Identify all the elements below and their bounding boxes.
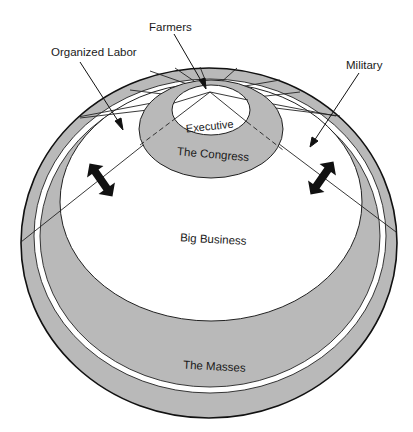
military-label: Military bbox=[346, 59, 383, 71]
farmers-label: Farmers bbox=[149, 21, 192, 33]
organized-labor-label: Organized Labor bbox=[51, 46, 137, 58]
power-structure-diagram: Farmers Organized Labor Military Executi… bbox=[0, 0, 413, 432]
